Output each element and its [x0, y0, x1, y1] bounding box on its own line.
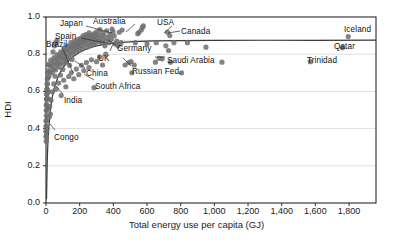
chart-figure: 02004006008001,0001,2001,4001,6001,800 0…	[0, 0, 393, 242]
x-axis-title: Total energy use per capita (GJ)	[0, 219, 393, 230]
point-label-china: China	[86, 69, 108, 78]
point-label-qatar: Qatar	[334, 42, 355, 51]
y-tick-label: 0.2	[14, 160, 40, 170]
point-label-japan: Japan	[60, 19, 83, 28]
y-tick-label: 0.6	[14, 85, 40, 95]
y-tick-label: 0.8	[14, 48, 40, 58]
point-label-uk: UK	[98, 54, 110, 63]
x-tick-label: 1,800	[329, 206, 369, 216]
y-tick-label: 1.0	[14, 11, 40, 21]
point-label-australia: Australia	[93, 17, 126, 26]
point-label-congo: Congo	[54, 133, 79, 142]
point-label-germany: Germany	[117, 44, 151, 53]
data-points	[44, 23, 351, 144]
point-label-iceland: Iceland	[344, 25, 371, 34]
y-tick-label: 0.0	[14, 197, 40, 207]
point-label-usa: USA	[157, 18, 174, 27]
point-label-russian-fed: Russian Fed.	[132, 67, 181, 76]
point-label-india: India	[64, 96, 82, 105]
y-tick-label: 0.4	[14, 123, 40, 133]
point-label-trinidad: Trinidad	[307, 56, 337, 65]
point-label-brazil: Brazil	[46, 40, 67, 49]
y-axis-title: HDI	[2, 90, 13, 130]
point-label-saudi-arabia: Saudi Arabia	[167, 56, 215, 65]
point-label-canada: Canada	[181, 27, 210, 36]
point-label-south-africa: South Africa	[95, 82, 140, 91]
